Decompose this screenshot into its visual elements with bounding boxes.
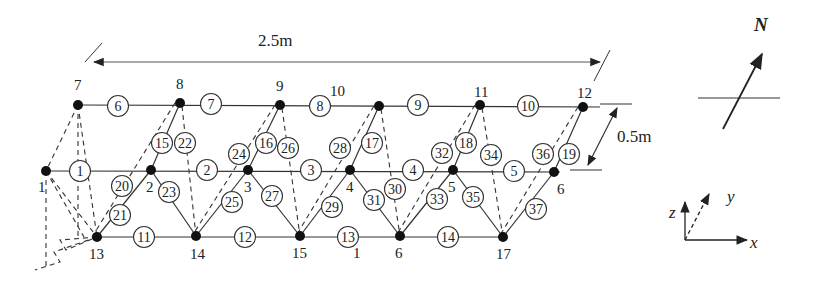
member-25: 25 (222, 192, 243, 213)
member-4: 4 (403, 160, 424, 181)
north-label: N (753, 14, 769, 35)
length-label: 2.5m (258, 31, 292, 50)
member-label: 12 (238, 230, 252, 245)
member-3: 3 (301, 160, 322, 181)
node-2 (146, 165, 156, 175)
member-label: 13 (341, 230, 355, 245)
node-label: 15 (292, 245, 307, 261)
member-24: 24 (229, 144, 250, 165)
member-9: 9 (408, 95, 429, 116)
member-label: 10 (521, 99, 535, 114)
node-8 (175, 98, 185, 108)
node-1 (41, 166, 51, 176)
axis-z-label: z (668, 203, 676, 222)
member-label: 33 (430, 192, 444, 207)
node-label: 1 (38, 179, 46, 195)
member-30: 30 (385, 179, 406, 200)
member-28: 28 (330, 138, 351, 159)
member-10: 10 (518, 96, 539, 117)
member-19: 19 (559, 144, 580, 165)
member-label: 35 (466, 190, 480, 205)
member-label: 32 (435, 146, 449, 161)
node-5 (448, 165, 458, 175)
member-label: 23 (162, 185, 176, 200)
node-4 (345, 165, 355, 175)
width-dimension: 0.5m (570, 104, 651, 170)
member-label: 11 (137, 230, 150, 245)
member-label: 24 (232, 147, 246, 162)
north-indicator: N (698, 14, 780, 129)
member-label: 29 (325, 200, 339, 215)
axis-y-label: y (725, 187, 735, 206)
member-16: 16 (256, 133, 277, 154)
node-17 (498, 232, 508, 242)
member-label: 28 (333, 141, 347, 156)
node-label: 2 (146, 179, 154, 195)
member-36: 36 (533, 144, 554, 165)
member-26: 26 (278, 138, 299, 159)
node-label: 4 (346, 179, 354, 195)
node-15 (295, 231, 305, 241)
member-35: 35 (463, 187, 484, 208)
member-12: 12 (235, 227, 256, 248)
member-label: 25 (225, 195, 239, 210)
member-2: 2 (197, 160, 218, 181)
member-6: 6 (108, 96, 129, 117)
node-label: 8 (176, 76, 184, 92)
node-label: 5 (448, 179, 456, 195)
member-label: 2 (204, 163, 211, 178)
node-11 (475, 100, 485, 110)
member-label: 4 (410, 163, 417, 178)
node-label: 10 (330, 83, 345, 99)
member-label: 18 (459, 136, 473, 151)
member-label: 21 (113, 208, 127, 223)
member-label: 15 (155, 136, 169, 151)
member-label: 9 (415, 98, 422, 113)
member-1: 1 (70, 161, 91, 182)
member-18: 18 (456, 133, 477, 154)
member-label: 34 (484, 148, 498, 163)
member-label: 22 (178, 136, 192, 151)
node-label: 6 (557, 181, 565, 197)
member-label: 1 (77, 164, 84, 179)
node-label: 17 (496, 246, 512, 262)
node-label: 6 (395, 245, 403, 261)
member-label: 20 (115, 179, 129, 194)
member-13: 13 (338, 227, 359, 248)
member-label: 31 (367, 193, 381, 208)
node-label: 14 (190, 246, 206, 262)
member-label: 5 (511, 164, 518, 179)
member-21: 21 (110, 205, 131, 226)
member-label: 30 (388, 182, 402, 197)
member-8: 8 (310, 96, 331, 117)
member-23: 23 (159, 182, 180, 203)
node-label: 13 (89, 246, 104, 262)
member-label: 36 (536, 147, 550, 162)
member-20: 20 (112, 176, 133, 197)
member-32: 32 (432, 143, 453, 164)
width-label: 0.5m (617, 127, 651, 146)
member-15: 15 (152, 133, 173, 154)
member-33: 33 (427, 189, 448, 210)
member-label: 17 (365, 136, 379, 151)
member-22: 22 (175, 133, 196, 154)
node-7 (73, 100, 83, 110)
member-14: 14 (438, 227, 459, 248)
member-29: 29 (322, 197, 343, 218)
node-13 (92, 232, 102, 242)
node-label: 1 (353, 245, 361, 261)
member-label: 3 (308, 163, 315, 178)
node-12 (578, 102, 588, 112)
node-label: 11 (474, 84, 488, 100)
member-label: 26 (281, 141, 295, 156)
axes-indicator: z y x (668, 187, 758, 252)
member-label: 19 (562, 147, 576, 162)
node-label: 7 (74, 77, 82, 93)
length-dimension: 2.5m (85, 31, 610, 81)
member-5: 5 (504, 161, 525, 182)
node-6 (549, 167, 559, 177)
member-label: 7 (208, 97, 215, 112)
node-14 (191, 231, 201, 241)
node-9 (275, 100, 285, 110)
member-27: 27 (262, 186, 283, 207)
